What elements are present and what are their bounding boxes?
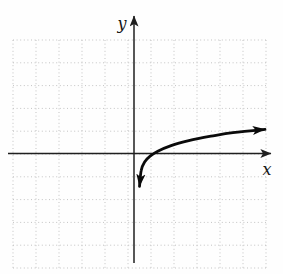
curve [140,129,266,186]
log-curve-graph: y x [0,0,283,274]
axes [8,16,271,263]
logarithmic-curve [140,129,266,186]
graph-figure: y x [0,0,283,274]
x-axis-label: x [262,160,271,179]
y-axis-label: y [116,14,127,33]
